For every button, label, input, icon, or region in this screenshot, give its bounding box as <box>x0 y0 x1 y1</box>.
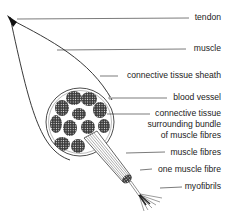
label-blood-vessel: blood vessel <box>173 92 221 103</box>
label-tendon: tendon <box>195 12 221 23</box>
label-myofibrils: myofibrils <box>185 181 221 192</box>
label-one-muscle-fibre: one muscle fibre <box>158 164 221 175</box>
label-connective-tissue-bundle-2: surrounding bundle <box>147 119 221 130</box>
label-muscle-fibres: muscle fibres <box>170 147 221 158</box>
label-muscle: muscle <box>194 43 221 54</box>
single-fibre <box>129 181 141 196</box>
label-connective-tissue-bundle-3: of muscle fibres <box>161 130 221 141</box>
label-connective-tissue-bundle-1: connective tissue <box>155 108 221 119</box>
label-connective-tissue-sheath: connective tissue sheath <box>127 70 221 81</box>
myofibrils-strands <box>139 194 162 211</box>
